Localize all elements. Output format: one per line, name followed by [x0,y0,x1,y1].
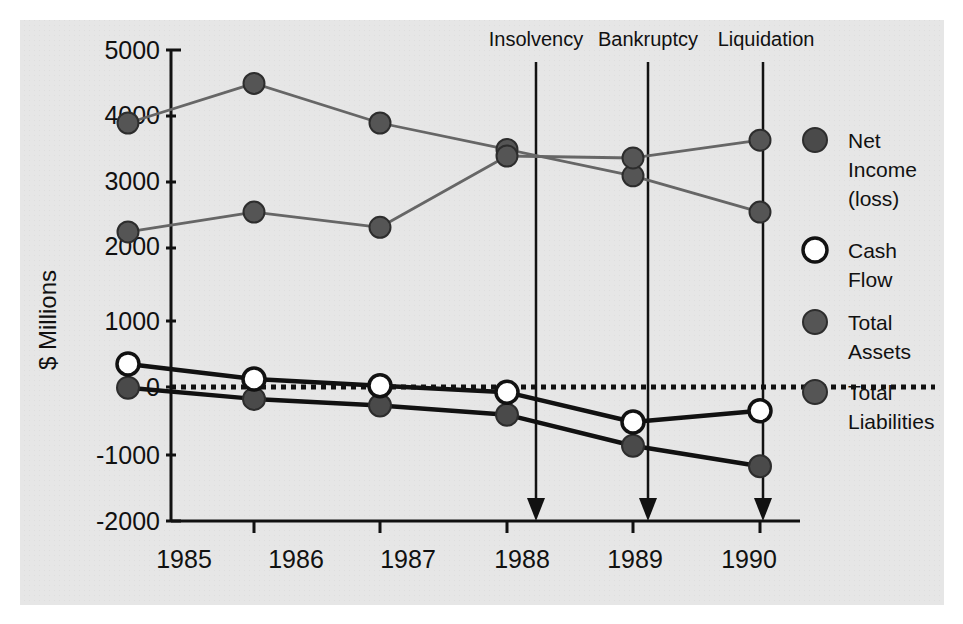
annotation-label: Insolvency [489,28,584,50]
data-point [750,130,771,151]
data-point [622,435,644,457]
annotation-insolvency: Insolvency [489,28,584,521]
data-point [749,455,771,477]
y-tick-label: 3000 [104,167,160,195]
legend-label: (loss) [848,187,899,210]
legend-label: Total [848,381,892,404]
x-tick-label: 1988 [494,545,550,573]
data-point [750,202,771,223]
series-cash-flow [128,364,760,422]
y-tick-label: -2000 [96,507,160,535]
arrowhead-down-icon [639,498,657,521]
y-tick-label: 0 [146,373,160,401]
x-tick-label: 1990 [721,545,777,573]
annotation-label: Bankruptcy [598,28,698,50]
arrowhead-down-icon [754,498,772,521]
data-point [623,147,644,168]
arrowhead-down-icon [527,498,545,521]
x-axis-ticks [128,521,760,533]
line-chart: 5000 4000 3000 2000 1000 0 -1000 -2000 $… [0,0,963,624]
data-point [497,146,518,167]
legend-entry[interactable]: NetIncome(loss) [803,128,917,210]
data-point [370,113,391,134]
x-tick-label: 1987 [380,545,436,573]
data-point [117,353,139,375]
y-tick-label: 1000 [104,307,160,335]
annotation-label: Liquidation [718,28,815,50]
data-point [118,113,139,134]
series-net-income-loss [128,388,760,467]
markers-net-income-loss [117,377,771,478]
annotation-liquidation: Liquidation [718,28,815,521]
x-tick-label: 1986 [268,545,324,573]
data-point [370,217,391,238]
y-axis-ticks [166,50,181,521]
data-point [496,381,518,403]
chart-screenshot: 5000 4000 3000 2000 1000 0 -1000 -2000 $… [0,0,963,624]
data-point [369,375,391,397]
y-tick-label: -1000 [96,441,160,469]
legend-label: Liabilities [848,410,934,433]
data-point [243,368,265,390]
data-series-layer [117,73,771,477]
data-point [117,377,139,399]
legend-swatch-icon [803,380,827,404]
y-tick-label: 5000 [104,36,160,64]
data-point [496,404,518,426]
legend-swatch-icon [803,238,827,262]
legend-label: Cash [848,239,897,262]
legend-entry[interactable]: CashFlow [803,238,897,291]
legend-label: Assets [848,340,911,363]
y-axis-tick-labels: 5000 4000 3000 2000 1000 0 -1000 -2000 [96,36,160,535]
legend-label: Flow [848,268,893,291]
legend-swatch-icon [803,128,827,152]
legend-entry[interactable]: TotalAssets [803,310,911,363]
data-point [749,400,771,422]
data-point [244,73,265,94]
legend-label: Net [848,129,881,152]
y-axis-title: $ Millions [34,270,61,370]
data-point [244,202,265,223]
legend-label: Income [848,158,917,181]
x-axis-tick-labels: 1985 1986 1987 1988 1989 1990 [156,545,777,573]
legend-swatch-icon [803,310,827,334]
data-point [622,411,644,433]
series-line [128,388,760,467]
legend-label: Total [848,311,892,334]
data-point [118,221,139,242]
markers-cash-flow [117,353,771,433]
x-tick-label: 1985 [156,545,212,573]
x-tick-label: 1989 [607,545,663,573]
series-line [128,364,760,422]
